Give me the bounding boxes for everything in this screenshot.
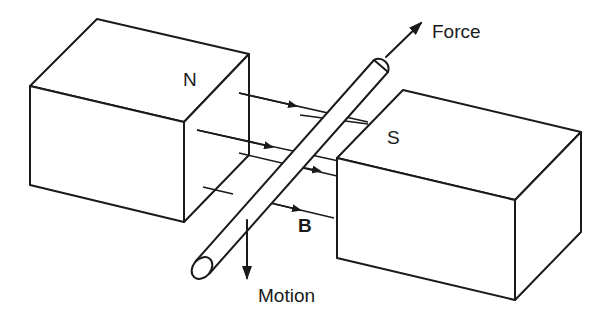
diagram-canvas: N S Force Motion B xyxy=(0,0,607,320)
force-label: Force xyxy=(432,22,481,41)
field-label: B xyxy=(298,216,312,235)
force-arrow xyxy=(386,23,421,57)
south-magnet-block xyxy=(337,90,581,300)
south-pole-label: S xyxy=(387,128,400,147)
north-pole-label: N xyxy=(183,70,197,89)
motion-label: Motion xyxy=(258,286,315,305)
diagram-drawing xyxy=(0,0,607,320)
north-magnet-block xyxy=(30,19,249,222)
